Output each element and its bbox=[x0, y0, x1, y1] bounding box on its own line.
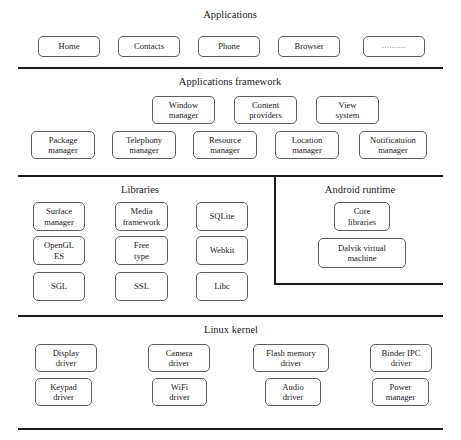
node-binder-ipc-driver[interactable]: Binder IPC driver bbox=[370, 344, 432, 372]
node-display-driver[interactable]: Display driver bbox=[35, 344, 97, 372]
section-caption-applications-framework: Applications framework bbox=[165, 76, 295, 88]
section-caption-applications: Applications bbox=[180, 9, 280, 21]
node-media-framework[interactable]: Media framework bbox=[115, 202, 168, 231]
node-content-providers[interactable]: Content providers bbox=[234, 96, 297, 124]
rule-below-libraries bbox=[18, 315, 443, 317]
node-opengl-es[interactable]: OpenGL ES bbox=[33, 236, 85, 265]
node-ellipsis[interactable]: .......... bbox=[363, 36, 425, 57]
node-notificatuion-manager[interactable]: Notificatuion manager bbox=[359, 131, 427, 159]
node-surface-manager[interactable]: Surface manager bbox=[33, 202, 85, 231]
node-ssl[interactable]: SSL bbox=[115, 272, 168, 301]
node-sqlite[interactable]: SQLite bbox=[196, 202, 248, 231]
section-caption-libraries: Libraries bbox=[105, 184, 175, 196]
node-wifi-driver[interactable]: WiFi driver bbox=[152, 378, 207, 406]
rule-below-framework bbox=[18, 175, 443, 177]
node-view-system[interactable]: View system bbox=[316, 96, 379, 124]
node-free-type[interactable]: Free type bbox=[115, 236, 168, 265]
node-contacts[interactable]: Contacts bbox=[118, 36, 180, 57]
node-webkit[interactable]: Webkit bbox=[196, 236, 248, 265]
node-home[interactable]: Home bbox=[38, 36, 100, 57]
node-browser[interactable]: Browser bbox=[278, 36, 340, 57]
node-core-libraries[interactable]: Core libraries bbox=[334, 202, 390, 231]
rule-below-runtime bbox=[274, 283, 443, 285]
node-power-manager[interactable]: Power manager bbox=[372, 378, 429, 406]
node-audio-driver[interactable]: Audio driver bbox=[265, 378, 321, 406]
node-keypad-driver[interactable]: Keypad driver bbox=[35, 378, 92, 406]
rule-runtime-divider bbox=[274, 176, 276, 285]
section-caption-linux-kernel: Linux kernel bbox=[186, 324, 276, 336]
node-libc[interactable]: Libc bbox=[196, 272, 248, 301]
node-location-manager[interactable]: Location manager bbox=[275, 131, 339, 159]
node-resource-manager[interactable]: Resource manager bbox=[193, 131, 257, 159]
node-sgl[interactable]: SGL bbox=[33, 272, 85, 301]
node-phone[interactable]: Phone bbox=[198, 36, 260, 57]
node-window-manager[interactable]: Window manager bbox=[152, 96, 215, 124]
android-architecture-diagram: ApplicationsApplications frameworkLibrar… bbox=[0, 0, 461, 440]
rule-below-kernel bbox=[18, 428, 443, 430]
node-dalvik-virtual-machine[interactable]: Dalvik virtual machine bbox=[318, 238, 406, 268]
node-camera-driver[interactable]: Camera driver bbox=[148, 344, 210, 372]
section-caption-android-runtime: Android runtime bbox=[310, 184, 410, 196]
node-telephony-manager[interactable]: Telephony manager bbox=[112, 131, 176, 159]
rule-below-applications bbox=[18, 67, 443, 69]
node-package-manager[interactable]: Package manager bbox=[31, 131, 95, 159]
node-flash-memory-driver[interactable]: Flash memory driver bbox=[253, 344, 329, 372]
